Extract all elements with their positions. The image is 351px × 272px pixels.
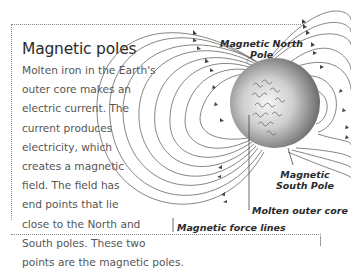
body-line: points are the magnetic poles. — [22, 253, 182, 272]
label-magnetic-north-pole: Magnetic North Pole — [220, 38, 303, 60]
label-magnetic-south-pole: Magnetic South Pole — [276, 169, 334, 191]
label-magnetic-force-lines: Magnetic force lines — [177, 222, 286, 233]
earth-sphere — [230, 58, 320, 148]
south-pole-leader — [288, 148, 293, 165]
label-molten-outer-core: Molten outer core — [252, 205, 348, 216]
